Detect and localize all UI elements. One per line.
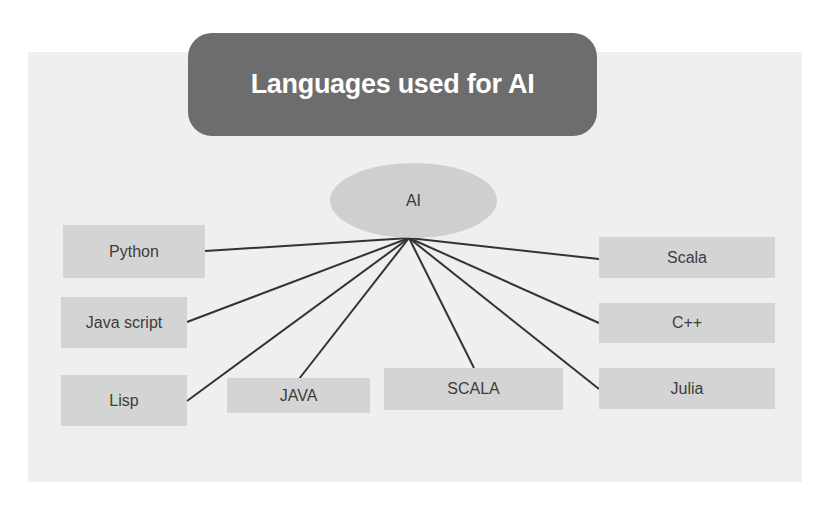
node-label: Lisp [109, 392, 138, 410]
edge-scala [409, 238, 599, 259]
hub-node-ai: AI [330, 163, 497, 238]
edge-scala-upper [409, 238, 474, 368]
hub-label: AI [406, 192, 421, 210]
node-label: Scala [667, 249, 707, 267]
node-cpp: C++ [599, 303, 775, 343]
diagram-title: Languages used for AI [188, 33, 597, 136]
node-javascript: Java script [61, 297, 187, 348]
edge-julia [409, 238, 599, 389]
node-label: Julia [671, 380, 704, 398]
node-python: Python [63, 225, 205, 278]
node-scala: Scala [599, 237, 775, 278]
diagram-title-text: Languages used for AI [251, 69, 535, 100]
node-label: Python [109, 243, 159, 261]
edge-cpp [409, 238, 599, 323]
node-julia: Julia [599, 368, 775, 409]
node-label: C++ [672, 314, 702, 332]
node-java: JAVA [227, 378, 370, 413]
node-scala-upper: SCALA [384, 368, 563, 410]
node-label: SCALA [447, 380, 499, 398]
node-label: JAVA [280, 387, 318, 405]
node-lisp: Lisp [61, 375, 187, 426]
node-label: Java script [86, 314, 162, 332]
edge-lisp [187, 238, 409, 401]
